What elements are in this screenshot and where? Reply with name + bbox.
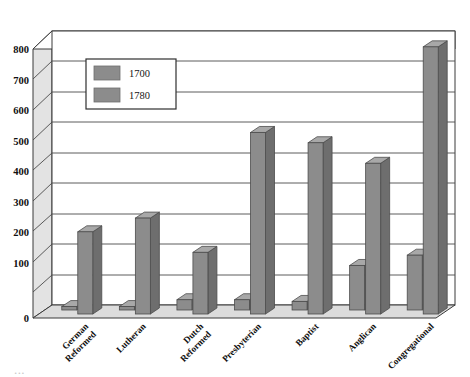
x-label-dutch-reformed: DutchReformed	[170, 321, 213, 364]
x-label-presbyterian-line1: Presbyterian	[220, 321, 263, 364]
y-axis-labels: 800 700 600 500 400 300 200 100 0	[13, 44, 29, 324]
bar-anglican-1700-front	[350, 265, 365, 310]
bar-chart-figure: 800 700 600 500 400 300 200 100 0 1700 1…	[0, 0, 470, 377]
bar-baptist-1780	[308, 137, 332, 314]
bar-lutheran-1780	[135, 212, 159, 314]
bar-baptist-1780-front	[308, 143, 323, 314]
bar-dutch-reformed-1780	[193, 246, 217, 314]
bar-german-reformed-1780-side	[93, 226, 102, 314]
y-tick-400: 400	[13, 166, 29, 177]
clipped-footer-text: ...	[14, 362, 244, 377]
bar-congregational-1780-front	[423, 47, 438, 314]
bar-baptist-1780-side	[323, 137, 332, 314]
y-tick-500: 500	[13, 136, 29, 147]
bar-congregational-1700-front	[407, 255, 422, 310]
y-tick-600: 600	[13, 105, 29, 116]
x-label-baptist-line1: Baptist	[294, 321, 322, 349]
bar-anglican-1780-side	[381, 157, 390, 314]
bar-presbyterian-1780-front	[251, 132, 266, 314]
y-tick-0: 0	[24, 313, 29, 324]
bar-german-reformed-1700-front	[62, 307, 77, 310]
x-label-anglican-line1: Anglican	[346, 321, 378, 353]
bar-dutch-reformed-1780-side	[208, 246, 217, 314]
bar-lutheran-1780-front	[135, 218, 150, 314]
x-label-lutheran: Lutheran	[114, 321, 147, 354]
bar-german-reformed-1780-front	[78, 232, 93, 314]
bar-dutch-reformed-1700-front	[177, 300, 192, 310]
bar-presbyterian-1780	[251, 126, 275, 314]
y-tick-300: 300	[13, 197, 29, 208]
bar-congregational-1780-side	[438, 41, 447, 314]
x-label-presbyterian: Presbyterian	[220, 321, 263, 364]
bar-lutheran-1700-front	[119, 307, 134, 310]
x-label-congregational-line1: Congregational	[386, 321, 436, 371]
y-tick-100: 100	[13, 258, 29, 269]
chart-canvas: 800 700 600 500 400 300 200 100 0 1700 1…	[0, 0, 470, 377]
y-tick-200: 200	[13, 227, 29, 238]
x-label-anglican: Anglican	[346, 321, 378, 353]
legend-label-1700: 1700	[129, 68, 150, 79]
y-tick-700: 700	[13, 75, 29, 86]
bar-baptist-1700-front	[292, 301, 307, 310]
x-label-baptist: Baptist	[294, 321, 322, 349]
bar-dutch-reformed-1780-front	[193, 252, 208, 314]
legend-swatch-1700	[94, 66, 120, 80]
bar-presbyterian-1700-front	[235, 300, 250, 310]
chart-legend: 1700 1780	[86, 59, 176, 109]
left-wall-face	[33, 31, 52, 318]
y-tick-800: 800	[13, 44, 29, 55]
x-label-lutheran-line1: Lutheran	[114, 321, 147, 354]
bar-anglican-1780	[366, 157, 390, 314]
x-label-congregational: Congregational	[386, 321, 436, 371]
bar-lutheran-1780-side	[150, 212, 159, 314]
bar-presbyterian-1780-side	[266, 126, 275, 314]
legend-label-1780: 1780	[129, 90, 150, 101]
bar-anglican-1780-front	[366, 163, 381, 314]
bar-german-reformed-1780	[78, 226, 102, 314]
legend-swatch-1780	[94, 88, 120, 102]
x-label-german-reformed: GermanReformed	[55, 321, 98, 364]
bar-congregational-1780	[423, 41, 447, 314]
